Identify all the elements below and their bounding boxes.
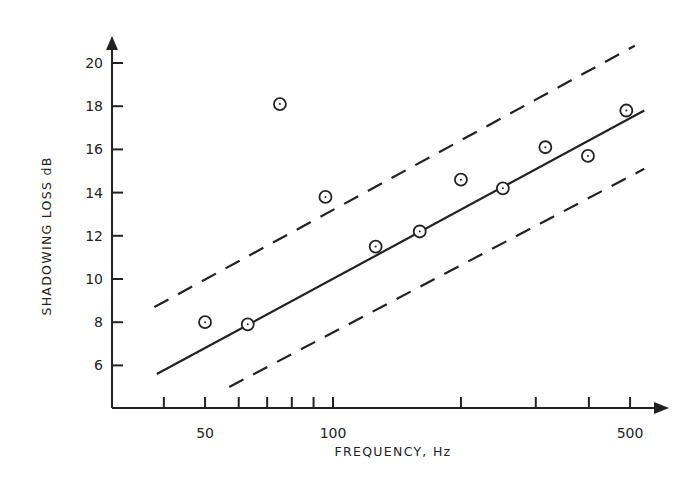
data-point (539, 141, 551, 153)
x-axis-arrow-icon (654, 402, 669, 414)
data-point (199, 316, 211, 328)
x-axis: 50100500 (112, 397, 669, 441)
chart: 68101214161820 50100500 FREQUENCY, Hz SH… (0, 0, 698, 488)
data-points (199, 98, 632, 330)
data-point (497, 182, 509, 194)
x-tick-label: 50 (196, 425, 214, 441)
dashed-bound-line (229, 169, 644, 387)
x-tick-label: 500 (617, 425, 644, 441)
data-point (620, 105, 632, 117)
data-point (370, 241, 382, 253)
x-tick-label: 100 (320, 425, 347, 441)
y-tick-label: 18 (85, 98, 103, 114)
y-axis-arrow-icon (106, 36, 118, 50)
y-tick-label: 12 (85, 228, 103, 244)
trend-lines (154, 46, 644, 387)
data-point (455, 174, 467, 186)
dashed-bound-line (154, 46, 634, 307)
y-tick-label: 6 (94, 357, 103, 373)
data-point (319, 191, 331, 203)
data-point (274, 98, 286, 110)
data-point (414, 225, 426, 237)
y-tick-label: 16 (85, 141, 103, 157)
y-tick-label: 10 (85, 271, 103, 287)
y-tick-label: 8 (94, 314, 103, 330)
y-tick-label: 14 (85, 185, 103, 201)
fit-line (157, 111, 644, 375)
data-point (582, 150, 594, 162)
y-axis: 68101214161820 (85, 36, 123, 408)
y-tick-label: 20 (85, 55, 103, 71)
data-point (242, 318, 254, 330)
y-axis-title: SHADOWING LOSS dB (39, 156, 54, 315)
x-axis-title: FREQUENCY, Hz (335, 444, 452, 459)
